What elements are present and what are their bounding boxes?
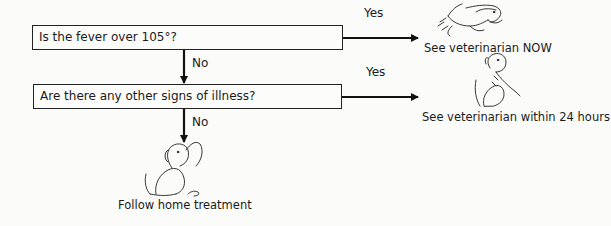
outcome-now-label: See veterinarian NOW [424,41,552,55]
no-label-2: No [192,115,208,129]
yes-label-2: Yes [366,65,385,79]
outcome-home-label: Follow home treatment [118,198,252,212]
yes-label-1: Yes [364,6,383,20]
question-box-fever: Is the fever over 105°? [32,25,343,50]
no-label-1: No [192,56,208,70]
question-other-signs-text: Are there any other signs of illness? [40,89,255,103]
sick-dog-icon [475,53,520,106]
outcome-24h-label: See veterinarian within 24 hours [422,110,610,124]
running-dog-icon [438,4,502,36]
question-fever-text: Is the fever over 105°? [39,30,177,44]
sitting-dog-icon [145,142,202,196]
question-box-other-signs: Are there any other signs of illness? [33,84,342,109]
